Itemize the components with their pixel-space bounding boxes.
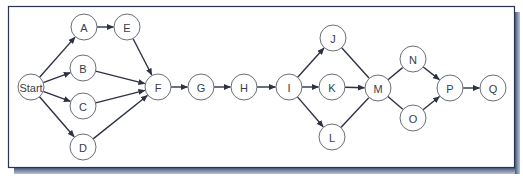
node-q: Q bbox=[480, 75, 506, 101]
node-label: N bbox=[409, 54, 417, 66]
node-j: J bbox=[320, 25, 346, 51]
node-b: B bbox=[70, 55, 96, 81]
node-m: M bbox=[365, 75, 391, 101]
node-label: G bbox=[197, 82, 206, 94]
node-label: D bbox=[79, 142, 87, 154]
node-label: L bbox=[329, 132, 335, 144]
node-h: H bbox=[231, 74, 257, 100]
node-e: E bbox=[114, 14, 140, 40]
node-label: Q bbox=[489, 83, 498, 95]
node-label: Start bbox=[19, 82, 42, 94]
node-label: O bbox=[409, 113, 418, 125]
node-c: C bbox=[70, 93, 96, 119]
network-diagram: StartABCDEFGHIJKLMNOPQ bbox=[0, 0, 523, 181]
node-label: I bbox=[287, 82, 290, 94]
frame-shadow-bottom bbox=[14, 168, 520, 174]
node-k: K bbox=[319, 74, 345, 100]
node-label: H bbox=[240, 82, 248, 94]
node-l: L bbox=[319, 124, 345, 150]
node-i: I bbox=[276, 74, 302, 100]
node-label: M bbox=[373, 83, 382, 95]
node-label: P bbox=[446, 83, 453, 95]
node-n: N bbox=[400, 46, 426, 72]
node-d: D bbox=[70, 134, 96, 160]
node-a: A bbox=[71, 14, 97, 40]
node-p: P bbox=[437, 75, 463, 101]
node-label: J bbox=[330, 33, 336, 45]
node-start: Start bbox=[18, 74, 44, 100]
node-g: G bbox=[188, 74, 214, 100]
frame-shadow-right bbox=[515, 12, 520, 174]
node-label: B bbox=[79, 63, 86, 75]
node-o: O bbox=[400, 105, 426, 131]
node-label: K bbox=[328, 82, 336, 94]
node-f: F bbox=[145, 74, 171, 100]
node-label: E bbox=[123, 22, 130, 34]
node-label: A bbox=[80, 22, 88, 34]
node-label: C bbox=[79, 101, 87, 113]
node-label: F bbox=[155, 82, 162, 94]
